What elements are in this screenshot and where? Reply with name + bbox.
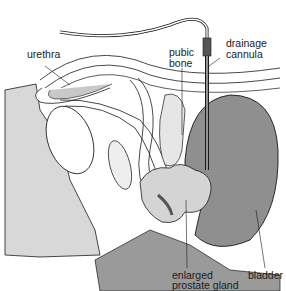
label-enlarged-prostate-line2: prostate gland (172, 280, 239, 291)
bladder-shape (185, 95, 278, 246)
pubic-bone (160, 94, 185, 166)
label-drainage-cannula-line2: cannula (226, 49, 263, 60)
label-pubic-bone-line2: bone (169, 58, 192, 69)
cannula-connector (203, 38, 211, 56)
anatomy-diagram: urethra pubic bone drainage cannula enla… (0, 0, 286, 291)
label-urethra: urethra (27, 49, 60, 60)
label-bladder: bladder (248, 270, 283, 281)
